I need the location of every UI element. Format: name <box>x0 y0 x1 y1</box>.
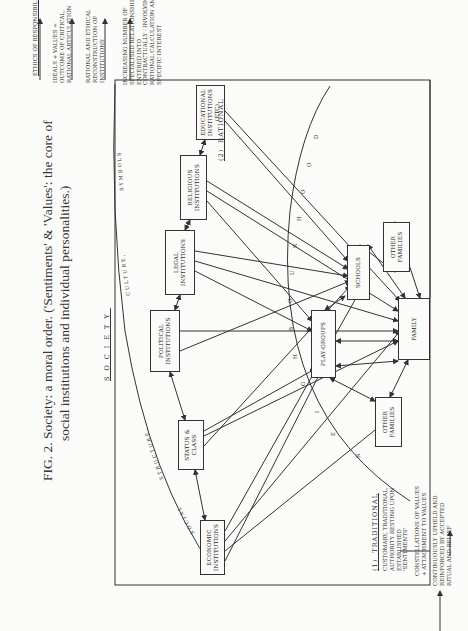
box-other-families-right: OTHER FAMILIES <box>383 222 410 272</box>
box-label: POLITICAL INSTITUTIONS <box>158 311 172 371</box>
nbhd-letter: U <box>289 270 296 275</box>
nbhd-letter: O <box>306 162 313 167</box>
box-political-institutions: POLITICAL INSTITUTIONS <box>150 310 180 372</box>
nbhd-letter: B <box>288 327 295 331</box>
box-label: STATUS & CLASS <box>184 421 198 469</box>
nbhd-letter: N <box>355 453 362 458</box>
nbhd-letter: D <box>313 135 320 139</box>
box-label: OTHER FAMILIES <box>390 223 404 271</box>
ethics-text: ETHICS OF RESPONSIBILITY <box>32 0 39 76</box>
box-schools: SCHOOLS <box>347 245 370 300</box>
box-family: FAMILY <box>398 298 430 360</box>
nbhd-letter: I <box>314 411 321 413</box>
constellation-text: CONSTELLATIONS OF VALUES + ATTACHMENT TO… <box>414 486 428 576</box>
box-status-class: STATUS & CLASS <box>178 420 204 470</box>
box-label: PLAY-GROUPS <box>320 322 327 366</box>
traditional-description: CUSTOMARY, TRADITIONAL, AUTHORITY RESTIN… <box>382 487 409 571</box>
box-label: ECONOMIC INSTITUTIONS <box>206 521 220 574</box>
rational-heading: (2) RATIONAL <box>218 98 225 161</box>
nbhd-letter: G <box>300 382 307 386</box>
nbhd-letter: O <box>300 189 307 194</box>
nbhd-letter: E <box>330 432 337 436</box>
box-label: FAMILY <box>411 317 418 341</box>
ideals-text: IDEALS + VALUES = OUTCOME OF CRITICAL, R… <box>52 5 72 83</box>
traditional-heading: (1) TRADITIONAL <box>372 493 379 571</box>
box-label: OTHER FAMILIES <box>382 398 396 446</box>
reconstruction-text: RATIONAL AND ETHICAL RECONSTRUCTION OF I… <box>85 9 105 83</box>
nbhd-letter: O <box>287 298 294 303</box>
box-label: SCHOOLS <box>355 257 362 288</box>
diagram-stage: FIG. 2. Society: a moral order. ('Sentim… <box>0 0 468 631</box>
upheld-text: CONTINUOUSLY UPHELD AND REINFORCED BY AC… <box>432 495 452 586</box>
society-label: SOCIETY <box>103 308 111 381</box>
box-other-families-left: OTHER FAMILIES <box>375 397 402 447</box>
box-religious-institutions: RELIGIOUS INSTITUTIONS <box>180 155 207 220</box>
box-legal-institutions: LEGAL INSTITUTIONS <box>165 230 195 295</box>
nbhd-letter: H <box>292 354 299 359</box>
nbhd-letter: H <box>296 216 303 221</box>
box-play-groups: PLAY-GROUPS <box>311 310 336 378</box>
rational-description: INCREASING NUMBER OF SPECIALISED RELATIO… <box>122 0 163 85</box>
box-label: LEGAL INSTITUTIONS <box>173 231 187 294</box>
box-label: RELIGIOUS INSTITUTIONS <box>187 156 201 219</box>
box-economic-institutions: ECONOMIC INSTITUTIONS <box>200 520 225 575</box>
nbhd-letter: R <box>292 244 299 248</box>
